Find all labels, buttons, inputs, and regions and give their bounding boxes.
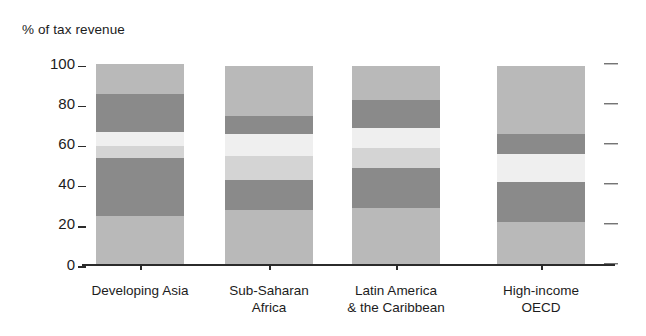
bar-segment xyxy=(497,222,585,264)
bar-segment xyxy=(497,134,585,154)
bar-segment xyxy=(225,180,313,210)
stacked-bar xyxy=(225,66,313,264)
bar-segment xyxy=(497,154,585,182)
bar-segment xyxy=(352,100,440,128)
bar-segment xyxy=(96,158,184,216)
x-axis-label: Latin America & the Caribbean xyxy=(316,282,476,316)
x-axis-tick-mark xyxy=(396,264,398,270)
bar-segment xyxy=(225,66,313,116)
bar-segment xyxy=(225,116,313,134)
bar-segment xyxy=(352,208,440,264)
x-axis-labels: Developing AsiaSub-Saharan AfricaLatin A… xyxy=(0,276,646,334)
bar-segment xyxy=(352,168,440,208)
x-axis-tick-mark xyxy=(541,264,543,270)
chart-container: % of tax revenue 100806040200 Developing… xyxy=(0,0,646,336)
bar-segment xyxy=(96,216,184,264)
x-axis-tick-mark xyxy=(140,264,142,270)
bar-segment xyxy=(497,182,585,222)
bar-segment xyxy=(352,148,440,168)
stacked-bar xyxy=(352,66,440,264)
bar-segment xyxy=(96,146,184,158)
bar-segment xyxy=(96,64,184,94)
bar-segment xyxy=(352,128,440,148)
x-axis-label: High-income OECD xyxy=(461,282,621,316)
bar-segment xyxy=(96,132,184,146)
bar-segment xyxy=(96,94,184,132)
bar-segment xyxy=(352,66,440,100)
bar-segment xyxy=(225,210,313,264)
bar-segment xyxy=(225,156,313,180)
x-axis-tick-mark xyxy=(269,264,271,270)
stacked-bar xyxy=(96,64,184,264)
stacked-bar xyxy=(497,66,585,264)
x-axis-baseline xyxy=(82,264,615,266)
bar-segment xyxy=(225,134,313,156)
bar-segment xyxy=(497,66,585,134)
